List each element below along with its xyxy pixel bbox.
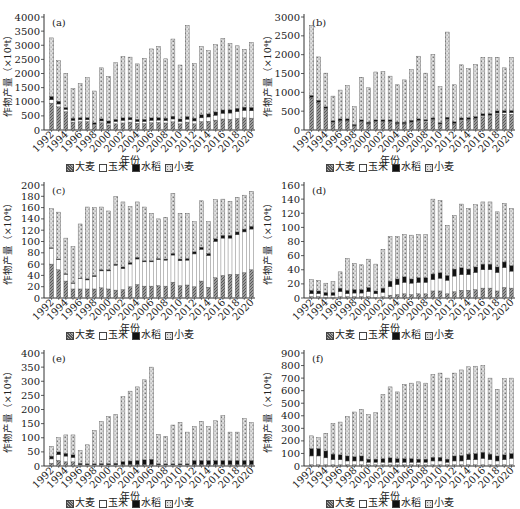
chart-panel-a: 05001000150020002500300035004000作物产量（×10… [0, 0, 260, 168]
legend-swatch-icon [99, 500, 107, 508]
svg-text:0: 0 [34, 461, 40, 472]
svg-text:300: 300 [281, 423, 300, 434]
legend-item-maize: 玉米 [99, 494, 128, 509]
svg-text:作物产量（×10⁴t）: 作物产量（×10⁴t） [2, 30, 13, 118]
svg-text:4000: 4000 [15, 12, 40, 23]
legend-item-wheat: 小麦 [425, 494, 454, 509]
legend-swatch-icon [425, 500, 433, 508]
svg-text:2000: 2000 [275, 49, 300, 60]
chart-panel-f: 0100200300400500600700800900作物产量（×10⁴t）(… [260, 336, 520, 504]
svg-text:0: 0 [294, 293, 300, 304]
legend-label: 水稻 [401, 497, 421, 508]
svg-text:200: 200 [281, 435, 300, 446]
svg-text:100: 100 [281, 222, 300, 233]
svg-text:100: 100 [21, 236, 40, 247]
svg-text:2500: 2500 [275, 30, 300, 41]
svg-text:900: 900 [281, 348, 300, 359]
chart-legend: 大麦玉米水稻小麦 [260, 494, 520, 509]
svg-text:200: 200 [21, 180, 40, 191]
svg-text:200: 200 [21, 404, 40, 415]
svg-text:400: 400 [21, 348, 40, 359]
legend-swatch-icon [392, 500, 400, 508]
legend-item-barley: 大麦 [66, 494, 95, 509]
svg-text:0: 0 [294, 461, 300, 472]
svg-text:50: 50 [27, 446, 40, 457]
svg-text:(b): (b) [312, 17, 326, 28]
stacked-bar-chart: 020406080100120140160作物产量（×10⁴t）(d)19921… [260, 168, 520, 336]
legend-item-wheat: 小麦 [165, 494, 194, 509]
svg-text:1500: 1500 [275, 68, 300, 79]
svg-text:1000: 1000 [15, 96, 40, 107]
svg-text:160: 160 [21, 202, 40, 213]
svg-text:2000: 2000 [15, 68, 40, 79]
svg-text:500: 500 [281, 398, 300, 409]
svg-text:作物产量（×10⁴t）: 作物产量（×10⁴t） [2, 198, 13, 286]
svg-text:20: 20 [27, 281, 40, 292]
legend-label: 玉米 [368, 497, 388, 508]
legend-swatch-icon [326, 500, 334, 508]
legend-item-maize: 玉米 [359, 494, 388, 509]
legend-swatch-icon [132, 500, 140, 508]
svg-text:作物产量（×10⁴t）: 作物产量（×10⁴t） [2, 366, 13, 454]
svg-text:1000: 1000 [275, 87, 300, 98]
svg-text:80: 80 [287, 236, 300, 247]
svg-text:800: 800 [281, 360, 300, 371]
legend-label: 大麦 [335, 497, 355, 508]
svg-text:40: 40 [27, 270, 40, 281]
svg-text:300: 300 [21, 376, 40, 387]
legend-label: 小麦 [174, 497, 194, 508]
svg-text:(e): (e) [52, 353, 66, 364]
svg-text:1500: 1500 [15, 82, 40, 93]
svg-text:(c): (c) [52, 185, 66, 196]
stacked-bar-chart: 05001000150020002500300035004000作物产量（×10… [0, 0, 260, 168]
legend-item-rice: 水稻 [132, 494, 161, 509]
svg-text:150: 150 [21, 418, 40, 429]
svg-text:140: 140 [21, 213, 40, 224]
svg-text:2500: 2500 [15, 54, 40, 65]
svg-text:0: 0 [34, 125, 40, 136]
legend-item-barley: 大麦 [326, 494, 355, 509]
svg-text:120: 120 [281, 208, 300, 219]
legend-swatch-icon [66, 500, 74, 508]
chart-panel-b: 050010001500200025003000作物产量（×10⁴t）(b)19… [260, 0, 520, 168]
svg-text:250: 250 [21, 390, 40, 401]
svg-text:作物产量（×10⁴t）: 作物产量（×10⁴t） [262, 366, 273, 454]
svg-text:(d): (d) [312, 185, 326, 196]
legend-swatch-icon [165, 500, 173, 508]
svg-text:60: 60 [27, 259, 40, 270]
svg-text:400: 400 [281, 410, 300, 421]
svg-text:3500: 3500 [15, 26, 40, 37]
svg-text:3000: 3000 [275, 12, 300, 23]
legend-label: 水稻 [141, 497, 161, 508]
stacked-bar-chart: 020406080100120140160180200作物产量（×10⁴t）(c… [0, 168, 260, 336]
svg-text:3000: 3000 [15, 40, 40, 51]
svg-text:40: 40 [287, 264, 300, 275]
legend-label: 玉米 [108, 497, 128, 508]
chart-panel-e: 050100150200250300350400作物产量（×10⁴t）(e)19… [0, 336, 260, 504]
svg-text:80: 80 [27, 247, 40, 258]
svg-text:(a): (a) [52, 17, 66, 28]
svg-text:600: 600 [281, 385, 300, 396]
svg-text:500: 500 [21, 110, 40, 121]
svg-text:180: 180 [21, 191, 40, 202]
svg-text:0: 0 [34, 293, 40, 304]
svg-text:160: 160 [281, 180, 300, 191]
chart-legend: 大麦玉米水稻小麦 [0, 494, 260, 509]
stacked-bar-chart: 050010001500200025003000作物产量（×10⁴t）(b)19… [260, 0, 520, 168]
legend-label: 小麦 [434, 497, 454, 508]
svg-text:作物产量（×10⁴t）: 作物产量（×10⁴t） [262, 30, 273, 118]
stacked-bar-chart: 0100200300400500600700800900作物产量（×10⁴t）(… [260, 336, 520, 504]
svg-text:140: 140 [281, 194, 300, 205]
svg-text:(f): (f) [312, 353, 324, 364]
svg-text:500: 500 [281, 106, 300, 117]
svg-text:350: 350 [21, 362, 40, 373]
svg-text:700: 700 [281, 373, 300, 384]
stacked-bar-chart: 050100150200250300350400作物产量（×10⁴t）(e)19… [0, 336, 260, 504]
legend-item-rice: 水稻 [392, 494, 421, 509]
svg-text:60: 60 [287, 250, 300, 261]
chart-panel-c: 020406080100120140160180200作物产量（×10⁴t）(c… [0, 168, 260, 336]
chart-panel-d: 020406080100120140160作物产量（×10⁴t）(d)19921… [260, 168, 520, 336]
svg-text:0: 0 [294, 125, 300, 136]
svg-text:100: 100 [21, 432, 40, 443]
svg-text:100: 100 [281, 448, 300, 459]
